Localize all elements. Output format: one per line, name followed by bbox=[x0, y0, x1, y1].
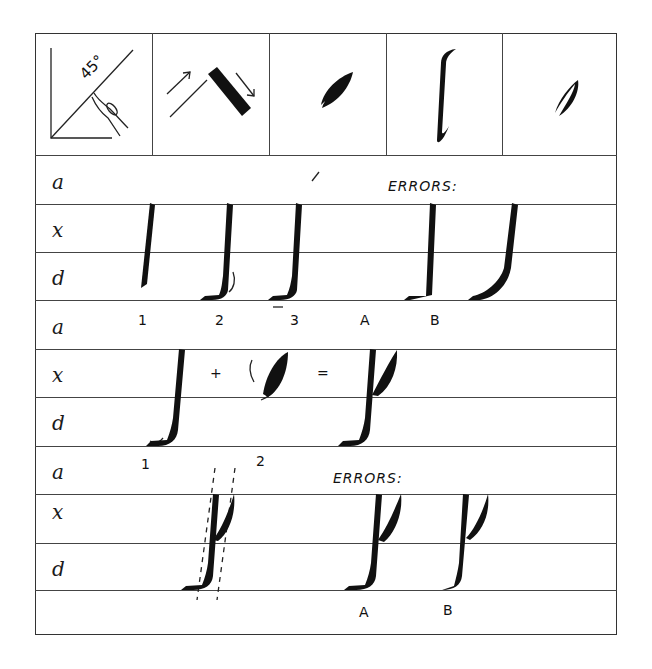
calligraphy-worksheet: a x d a x d a x d ERRORS: 1 2 3 A B + = … bbox=[0, 0, 652, 669]
svg-text:45°: 45° bbox=[76, 51, 108, 83]
calligraphy-strokes: 45° bbox=[0, 0, 652, 669]
